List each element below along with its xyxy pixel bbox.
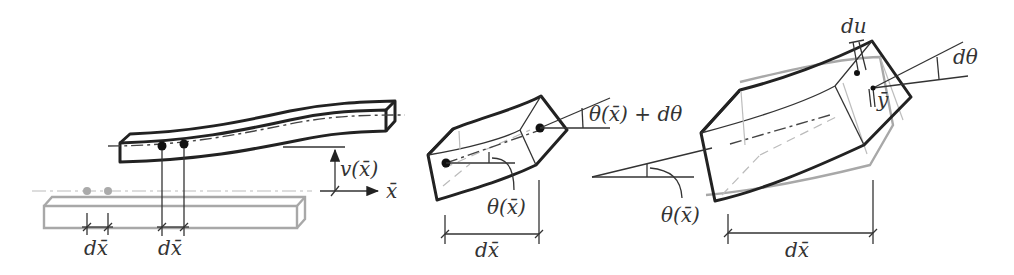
label-y-offset: ȳ [876,88,889,112]
label-du: du [841,14,867,38]
deformed-point-b [180,140,189,149]
label-segment-dx: dx̄ [475,238,499,262]
label-rotation-right: θ(x̄) + dθ [589,102,682,126]
label-deflection: v(x̄) [340,157,378,181]
deformed-beam [108,101,405,162]
panel-rotated-segment: θ(x̄) + dθ θ(x̄) dx̄ [428,96,682,262]
label-dx-deformed: dx̄ [158,236,182,260]
label-dx-undeformed: dx̄ [84,236,108,260]
label-dtheta: dθ [953,45,978,69]
undeformed-beam [32,187,312,228]
label-detail-dx: dx̄ [785,238,809,262]
deformed-point-a [158,142,167,151]
label-x-axis: x̄ [386,179,397,203]
label-rotation-left: θ(x̄) [487,195,526,219]
undeformed-point-a [83,187,91,195]
dimension-dx-undeformed: dx̄ [82,213,113,260]
deflection-dimension: v(x̄) x̄ [283,147,397,203]
panel-segment-detail: θ(x̄) dθ du ȳ dx̄ [592,14,978,262]
panel-deflected-beam: dx̄ dx̄ v(x̄) x̄ [32,101,405,260]
undeformed-point-b [104,187,112,195]
label-detail-rotation: θ(x̄) [661,203,700,227]
beam-bending-diagram: dx̄ dx̄ v(x̄) x̄ [0,0,1014,275]
fiber-point [854,70,860,76]
